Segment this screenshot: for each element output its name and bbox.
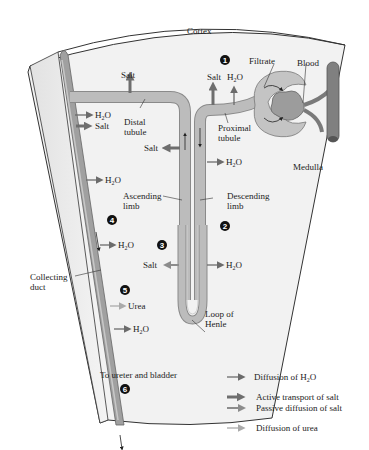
distal-tubule-label: Distaltubule bbox=[124, 117, 147, 137]
svg-text:3: 3 bbox=[160, 241, 165, 250]
region-medulla-label: Medulla bbox=[293, 162, 323, 172]
svg-text:Diffusion of urea: Diffusion of urea bbox=[256, 423, 318, 433]
collecting-top-salt-label: Salt bbox=[95, 121, 110, 131]
urea-label: Urea bbox=[128, 301, 146, 311]
kidney-nephron-diagram: Cortex Medulla Filtrate Blood Proximaltu… bbox=[0, 0, 369, 450]
step-marker-2: 2 bbox=[220, 221, 230, 231]
step-marker-4: 4 bbox=[107, 215, 117, 225]
proximal-salt-label: Salt bbox=[207, 72, 222, 82]
svg-text:1: 1 bbox=[223, 56, 228, 65]
bowmans-capsule bbox=[254, 71, 306, 136]
svg-text:Active transport of salt: Active transport of salt bbox=[256, 392, 339, 402]
svg-text:Diffusion of H2O: Diffusion of H2O bbox=[254, 372, 317, 383]
region-cortex-label: Cortex bbox=[187, 26, 212, 36]
svg-text:Passive diffusion of salt: Passive diffusion of salt bbox=[256, 403, 343, 413]
svg-text:4: 4 bbox=[110, 216, 115, 225]
svg-text:2: 2 bbox=[223, 222, 228, 231]
blood-label: Blood bbox=[297, 58, 320, 68]
legend-item-urea-diffusion: Diffusion of urea bbox=[227, 423, 318, 433]
step-marker-3: 3 bbox=[157, 240, 167, 250]
outlet-label: To ureter and bladder bbox=[100, 370, 177, 380]
distal-salt-label: Salt bbox=[121, 70, 136, 80]
collecting-duct-label: Collectingduct bbox=[30, 272, 68, 292]
svg-text:5: 5 bbox=[123, 286, 128, 295]
step-marker-6: 6 bbox=[120, 384, 130, 394]
ascending-upper-salt-label: Salt bbox=[144, 143, 159, 153]
ascending-lower-salt-label: Salt bbox=[143, 260, 158, 270]
step-marker-5: 5 bbox=[120, 285, 130, 295]
step-marker-1: 1 bbox=[220, 55, 230, 65]
svg-text:6: 6 bbox=[123, 385, 128, 394]
filtrate-label: Filtrate bbox=[249, 56, 275, 66]
